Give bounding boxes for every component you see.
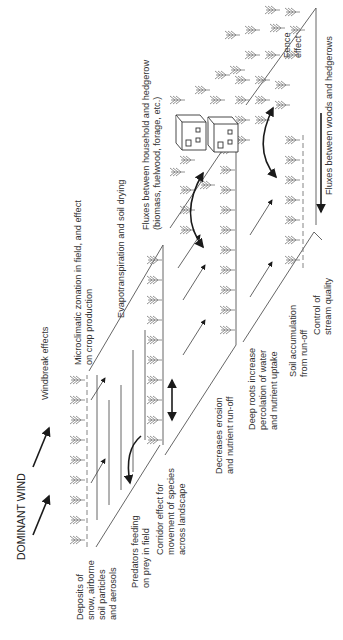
trees-household bbox=[170, 86, 215, 234]
svg-text:Corridor effect for: Corridor effect for bbox=[155, 484, 165, 555]
fluxes-household-label: Fluxes between household and hedgerow (b… bbox=[141, 60, 162, 230]
deep-roots-label: Deep roots increase percolation of water… bbox=[247, 348, 279, 430]
predators-label: Predators feeding on prey in field bbox=[130, 515, 151, 588]
svg-text:stream quality: stream quality bbox=[323, 277, 333, 335]
svg-text:Deposits of: Deposits of bbox=[75, 574, 85, 620]
erosion-label: Decreases erosion and nutrient run-off bbox=[214, 396, 235, 474]
svg-text:Fluxes between household and h: Fluxes between household and hedgerow bbox=[141, 60, 151, 230]
svg-text:DOMINANT WIND: DOMINANT WIND bbox=[15, 473, 27, 560]
tree-row-hedgerow-2 bbox=[220, 146, 235, 334]
svg-text:on crop production: on crop production bbox=[84, 289, 94, 365]
svg-text:soil particles: soil particles bbox=[97, 569, 107, 620]
svg-text:Deep roots increase: Deep roots increase bbox=[247, 348, 257, 430]
stream-label: Control of stream quality bbox=[312, 277, 333, 335]
svg-text:(biomass, fuelwood, forage, et: (biomass, fuelwood, forage, etc.) bbox=[152, 97, 162, 230]
corridor-label: Corridor effect for movement of species … bbox=[155, 468, 187, 555]
tree-row-hedgerow-3 bbox=[285, 136, 300, 264]
svg-text:Windbreak effects: Windbreak effects bbox=[40, 326, 50, 400]
svg-text:movement of species: movement of species bbox=[166, 468, 176, 555]
svg-text:Evapotranspiration and soil dr: Evapotranspiration and soil drying bbox=[116, 180, 126, 318]
evapotranspiration-label: Evapotranspiration and soil drying bbox=[116, 180, 126, 318]
svg-text:Control of: Control of bbox=[312, 295, 322, 335]
svg-text:percolation of water: percolation of water bbox=[258, 350, 268, 430]
svg-text:Microclimatic zonation in fiel: Microclimatic zonation in field, and eff… bbox=[73, 200, 83, 365]
tree-row-windbreak bbox=[70, 376, 85, 544]
house-1-icon bbox=[176, 115, 206, 150]
svg-text:and nutrient run-off: and nutrient run-off bbox=[225, 396, 235, 474]
svg-text:and aerosols: and aerosols bbox=[108, 567, 118, 620]
svg-text:Fence: Fence bbox=[282, 32, 292, 58]
fluxes-woods-label: Fluxes between woods and hedgerows bbox=[324, 36, 334, 195]
woods-flux-arrow bbox=[263, 108, 276, 177]
house-2-icon bbox=[208, 117, 238, 152]
windbreak-label: Windbreak effects bbox=[40, 326, 50, 400]
predator-arrow bbox=[128, 436, 141, 483]
svg-text:Decreases erosion: Decreases erosion bbox=[214, 397, 224, 474]
svg-text:and nutrient uptake: and nutrient uptake bbox=[269, 351, 279, 430]
svg-text:effect: effect bbox=[293, 35, 303, 58]
svg-text:on prey in field: on prey in field bbox=[141, 528, 151, 588]
svg-text:Fluxes between woods and hedge: Fluxes between woods and hedgerows bbox=[324, 36, 334, 195]
wind-arrows bbox=[33, 428, 49, 535]
dominant-wind-label: DOMINANT WIND bbox=[15, 473, 27, 560]
soil-accumulation-label: Soil accumulation from run-off bbox=[288, 305, 309, 377]
deposits-label: Deposits of snow, airborne soil particle… bbox=[75, 560, 118, 620]
svg-text:Predators feeding: Predators feeding bbox=[130, 515, 140, 588]
agroforestry-diagram: DOMINANT WIND Windbreak effects Deposits… bbox=[0, 0, 343, 640]
tree-row-hedgerow-1 bbox=[147, 256, 162, 444]
svg-text:across landscape: across landscape bbox=[177, 484, 187, 556]
microclimatic-label: Microclimatic zonation in field, and eff… bbox=[73, 200, 94, 365]
svg-text:from run-off: from run-off bbox=[299, 329, 309, 377]
svg-text:Soil accumulation: Soil accumulation bbox=[288, 305, 298, 377]
microclimate-lines bbox=[97, 330, 145, 520]
svg-text:snow, airborne: snow, airborne bbox=[86, 560, 96, 620]
